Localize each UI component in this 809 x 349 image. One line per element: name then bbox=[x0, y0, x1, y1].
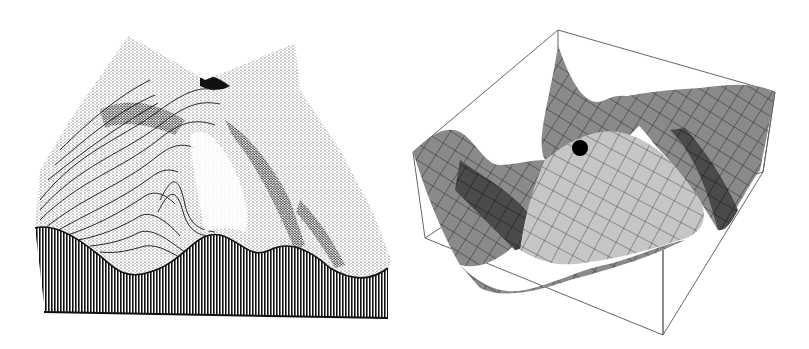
mesh-surface-graphic bbox=[400, 0, 809, 349]
landscape-surface-graphic bbox=[0, 0, 400, 349]
stippled-landscape-figure: Engraved / stippled 3D terrain with a sa… bbox=[0, 0, 400, 349]
ball-marker bbox=[572, 140, 588, 156]
mesh-surface-figure: Shaded wire-mesh wavy surface inside a w… bbox=[400, 0, 809, 349]
